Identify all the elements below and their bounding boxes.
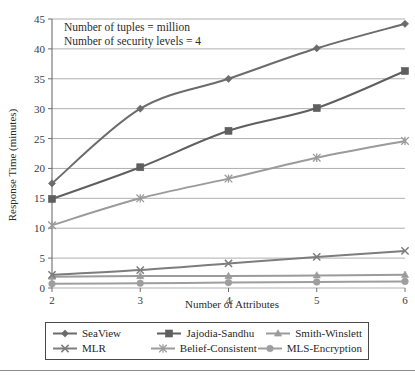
figure: 051015202530354045 23456 Response Time (… <box>0 0 415 379</box>
series-line-belief-consistent <box>52 141 405 225</box>
y-tick-label: 10 <box>34 222 46 234</box>
legend-label: Belief-Consistent <box>180 342 257 355</box>
legend-marker-square-icon <box>156 327 182 340</box>
legend-marker-diamond-icon <box>52 327 78 340</box>
data-point-circle <box>137 280 144 287</box>
y-tick-label: 0 <box>40 282 46 294</box>
y-tick-label: 20 <box>34 162 46 174</box>
legend-row: SeaView Jajodia-Sandhu Smith-Winslett <box>52 326 362 341</box>
data-point-square <box>166 330 173 337</box>
y-tick-label: 15 <box>34 192 46 204</box>
data-point-diamond <box>225 75 232 82</box>
legend-label: Jajodia-Sandhu <box>186 327 254 340</box>
legend-label: Smith-Winslett <box>295 327 362 340</box>
legend-label: MLS-Encryption <box>287 342 362 355</box>
data-point-square <box>313 105 320 112</box>
legend-marker-x-icon <box>52 342 78 355</box>
y-axis-tick-labels: 051015202530354045 <box>34 13 46 294</box>
data-point-diamond <box>61 330 68 337</box>
legend-item-smith-winslett[interactable]: Smith-Winslett <box>265 326 362 341</box>
legend-item-mls-encryption[interactable]: MLS-Encryption <box>257 341 362 356</box>
chart-legend: SeaView Jajodia-Sandhu Smith-Winslett ML… <box>45 322 369 360</box>
y-tick-label: 30 <box>34 103 46 115</box>
data-point-circle <box>402 278 409 285</box>
legend-row: MLR Belief-Consistent MLS-Encryption <box>52 341 362 356</box>
y-tick-label: 35 <box>34 73 46 85</box>
y-tick-label: 25 <box>34 133 46 145</box>
x-tick-label: 5 <box>314 294 320 306</box>
legend-marker-triangle-icon <box>265 327 291 340</box>
data-point-square <box>225 127 232 134</box>
line-chart-plot: 051015202530354045 23456 Response Time (… <box>0 0 415 312</box>
data-point-diamond <box>313 45 320 52</box>
x-axis-title: Number of Attributes <box>185 298 279 310</box>
data-series-layer <box>48 20 409 287</box>
x-tick-label: 3 <box>138 294 144 306</box>
legend-item-mlr[interactable]: MLR <box>52 341 150 356</box>
bottom-divider <box>0 370 415 371</box>
legend-marker-asterisk-icon <box>150 342 176 355</box>
y-tick-label: 5 <box>40 252 46 264</box>
legend-item-seaview[interactable]: SeaView <box>52 326 156 341</box>
data-point-square <box>402 68 409 75</box>
data-point-circle <box>225 279 232 286</box>
series-line-seaview <box>52 24 405 184</box>
chart-area: 051015202530354045 23456 Response Time (… <box>0 0 415 312</box>
data-point-circle <box>267 345 274 352</box>
x-tick-label: 6 <box>402 294 408 306</box>
legend-marker-circle-icon <box>257 342 283 355</box>
gridlines <box>52 19 405 288</box>
annotation-line-1: Number of tuples = million <box>64 21 190 34</box>
data-point-circle <box>49 281 56 288</box>
x-tick-label: 2 <box>49 294 55 306</box>
legend-label: MLR <box>82 342 106 355</box>
data-point-diamond <box>401 20 408 27</box>
data-point-circle <box>313 279 320 286</box>
data-point-square <box>137 164 144 171</box>
data-point-square <box>49 195 56 202</box>
axis-lines <box>48 19 405 292</box>
annotation-line-2: Number of security levels = 4 <box>64 35 201 48</box>
legend-item-belief-consistent[interactable]: Belief-Consistent <box>150 341 257 356</box>
y-tick-label: 40 <box>34 43 46 55</box>
legend-label: SeaView <box>82 327 121 340</box>
y-tick-label: 45 <box>34 13 46 25</box>
y-axis-title: Response Time (minutes) <box>6 108 19 221</box>
legend-item-jajodia-sandhu[interactable]: Jajodia-Sandhu <box>156 326 265 341</box>
